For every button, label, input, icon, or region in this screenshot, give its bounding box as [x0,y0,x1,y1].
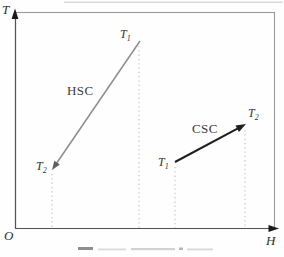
point-label-csc-t1: T1 [158,156,169,168]
point-label-csc-t2: T2 [248,107,259,119]
figure: T O H HSC CSC T1 T2 T1 T2 [0,0,284,257]
plot-frame [16,13,275,229]
hsc-label: HSC [67,84,94,97]
x-axis-label: H [266,234,275,247]
point-label-sub: 2 [255,113,259,122]
origin-label: O [4,229,13,242]
point-label-sub: 1 [127,34,131,43]
point-label-hsc-t2: T2 [36,160,47,172]
point-label-sub: 1 [165,162,169,171]
figure-canvas [0,0,284,257]
point-label-hsc-t1: T1 [120,28,131,40]
x-axis-arrow-icon [269,225,280,232]
point-label-sub: 2 [43,166,47,175]
y-axis-label: T [2,3,9,16]
scan-artifact-top [64,2,283,3]
y-axis-arrow-icon [12,9,19,20]
point-label-base: T [120,27,127,41]
csc-label: CSC [192,122,218,135]
scan-artifact-caption [78,247,213,250]
hsc-arrowhead-icon [52,161,60,170]
point-label-base: T [248,106,255,120]
csc-arrowhead-icon [236,124,247,132]
point-label-base: T [36,159,43,173]
hsc-line [55,41,140,165]
point-label-base: T [158,155,165,169]
